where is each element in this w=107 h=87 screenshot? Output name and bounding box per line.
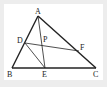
label-p: P [43, 35, 48, 44]
label-b: B [7, 70, 12, 79]
label-c: C [93, 70, 98, 79]
side-ab [12, 16, 38, 68]
label-a: A [35, 7, 41, 16]
segment-df [25, 43, 79, 51]
triangle-diagram: A B C D E F P [0, 0, 107, 87]
label-d: D [17, 36, 23, 45]
label-e: E [42, 70, 47, 79]
label-f: F [80, 43, 85, 52]
